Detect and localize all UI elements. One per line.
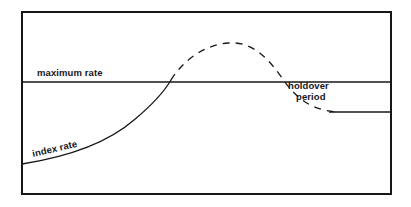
maximum-rate-label: maximum rate [37,67,103,78]
figure-background [0,0,411,207]
holdover-label-line1: holdover [288,80,329,91]
holdover-label-line2: period [296,91,326,102]
rate-cap-diagram: maximum rate holdover period index rate [0,0,411,207]
figure-container: maximum rate holdover period index rate [0,0,411,207]
